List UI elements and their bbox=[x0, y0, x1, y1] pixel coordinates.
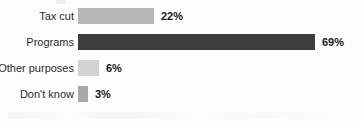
scan-artifact-bottom bbox=[8, 112, 348, 119]
bar-rows: Tax cut 22% Programs 69% Other purposes … bbox=[0, 8, 362, 112]
value-label-dont-know: 3% bbox=[95, 86, 111, 102]
bar-tax-cut bbox=[78, 8, 154, 24]
table-row: Don't know 3% bbox=[0, 86, 362, 112]
category-label-dont-know: Don't know bbox=[20, 86, 74, 102]
category-label-tax-cut: Tax cut bbox=[39, 8, 74, 24]
scan-artifact-top bbox=[56, 0, 66, 4]
bar-chart: Tax cut 22% Programs 69% Other purposes … bbox=[0, 0, 362, 121]
value-label-other-purposes: 6% bbox=[106, 60, 122, 76]
category-label-other-purposes: Other purposes bbox=[0, 60, 74, 76]
bar-programs bbox=[78, 34, 315, 50]
table-row: Other purposes 6% bbox=[0, 60, 362, 86]
value-label-programs: 69% bbox=[322, 34, 344, 50]
category-label-programs: Programs bbox=[26, 34, 74, 50]
table-row: Programs 69% bbox=[0, 34, 362, 60]
bar-other-purposes bbox=[78, 60, 99, 76]
bar-dont-know bbox=[78, 86, 88, 102]
value-label-tax-cut: 22% bbox=[161, 8, 183, 24]
table-row: Tax cut 22% bbox=[0, 8, 362, 34]
